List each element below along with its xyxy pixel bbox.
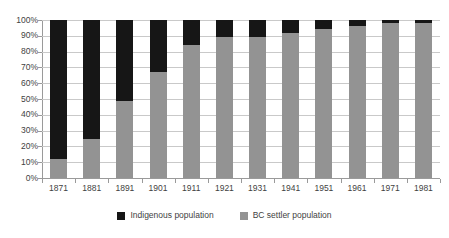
- x-tick-mark: [341, 179, 342, 183]
- bar-column[interactable]: [415, 20, 432, 178]
- x-tick-label: 1941: [274, 184, 307, 193]
- x-tick-mark: [241, 179, 242, 183]
- legend-swatch-icon: [117, 212, 125, 220]
- bar-segment-settler[interactable]: [116, 101, 133, 178]
- legend-item[interactable]: BC settler population: [240, 211, 332, 220]
- bar-column[interactable]: [282, 20, 299, 178]
- x-tick-mark: [75, 179, 76, 183]
- y-axis: 100%90%80%70%60%50%40%30%20%10%0%: [0, 0, 38, 238]
- legend-label: BC settler population: [253, 211, 332, 220]
- bar-segment-settler[interactable]: [315, 29, 332, 178]
- x-tick-label: 1901: [142, 184, 175, 193]
- bar-column[interactable]: [50, 20, 67, 178]
- x-tick-label: 1981: [407, 184, 440, 193]
- bar-segment-indigenous[interactable]: [282, 20, 299, 33]
- y-tick-label: 60%: [21, 79, 38, 88]
- bar-column[interactable]: [83, 20, 100, 178]
- y-tick-label: 40%: [21, 110, 38, 119]
- bar-segment-settler[interactable]: [249, 37, 266, 178]
- y-tick-label: 70%: [21, 63, 38, 72]
- bar-column[interactable]: [216, 20, 233, 178]
- x-tick-label: 1961: [341, 184, 374, 193]
- bar-column[interactable]: [382, 20, 399, 178]
- x-tick-label: 1891: [108, 184, 141, 193]
- y-tick-label: 50%: [21, 95, 38, 104]
- bar-segment-indigenous[interactable]: [216, 20, 233, 37]
- bar-segment-indigenous[interactable]: [183, 20, 200, 45]
- x-tick-mark: [274, 179, 275, 183]
- bar-segment-settler[interactable]: [83, 139, 100, 178]
- bar-column[interactable]: [249, 20, 266, 178]
- bar-segment-indigenous[interactable]: [382, 20, 399, 23]
- gridline: [42, 20, 440, 21]
- gridline: [42, 146, 440, 147]
- x-tick-mark: [407, 179, 408, 183]
- bar-segment-indigenous[interactable]: [415, 20, 432, 23]
- y-tick-label: 20%: [21, 142, 38, 151]
- bar-segment-indigenous[interactable]: [349, 20, 366, 26]
- y-tick-label: 10%: [21, 158, 38, 167]
- gridline: [42, 67, 440, 68]
- y-tick-label: 80%: [21, 47, 38, 56]
- gridline: [42, 36, 440, 37]
- y-tick-label: 30%: [21, 126, 38, 135]
- gridline: [42, 83, 440, 84]
- bar-column[interactable]: [315, 20, 332, 178]
- x-tick-label: 1871: [42, 184, 75, 193]
- x-tick-label: 1931: [241, 184, 274, 193]
- x-tick-mark: [374, 179, 375, 183]
- bar-column[interactable]: [150, 20, 167, 178]
- bar-segment-indigenous[interactable]: [249, 20, 266, 37]
- bar-segment-indigenous[interactable]: [315, 20, 332, 29]
- bar-column[interactable]: [183, 20, 200, 178]
- bar-segment-settler[interactable]: [382, 23, 399, 178]
- stacked-bar-chart: 100%90%80%70%60%50%40%30%20%10%0% 187118…: [0, 0, 449, 238]
- bar-segment-settler[interactable]: [282, 33, 299, 178]
- bar-column[interactable]: [349, 20, 366, 178]
- x-tick-label: 1971: [374, 184, 407, 193]
- gridline: [42, 52, 440, 53]
- y-tick-label: 0%: [26, 174, 38, 183]
- y-tick-label: 100%: [16, 16, 38, 25]
- legend-label: Indigenous population: [130, 211, 213, 220]
- gridline: [42, 162, 440, 163]
- x-tick-mark: [108, 179, 109, 183]
- bar-segment-settler[interactable]: [150, 72, 167, 178]
- x-tick-mark: [440, 179, 441, 183]
- bar-segment-settler[interactable]: [349, 26, 366, 178]
- plot-area: [42, 20, 440, 178]
- x-tick-mark: [307, 179, 308, 183]
- bar-segment-settler[interactable]: [183, 45, 200, 178]
- bar-segment-settler[interactable]: [216, 37, 233, 178]
- gridline: [42, 115, 440, 116]
- bar-segment-indigenous[interactable]: [150, 20, 167, 72]
- bar-segment-settler[interactable]: [415, 23, 432, 178]
- x-tick-label: 1921: [208, 184, 241, 193]
- x-tick-label: 1911: [175, 184, 208, 193]
- legend-swatch-icon: [240, 212, 248, 220]
- bar-segment-indigenous[interactable]: [50, 20, 67, 159]
- bar-column[interactable]: [116, 20, 133, 178]
- x-tick-label: 1951: [307, 184, 340, 193]
- bar-segment-settler[interactable]: [50, 159, 67, 178]
- x-tick-mark: [142, 179, 143, 183]
- gridline: [42, 131, 440, 132]
- legend-item[interactable]: Indigenous population: [117, 211, 213, 220]
- gridline: [42, 99, 440, 100]
- chart-legend: Indigenous populationBC settler populati…: [0, 211, 449, 220]
- x-tick-mark: [175, 179, 176, 183]
- x-tick-label: 1881: [75, 184, 108, 193]
- x-tick-mark: [42, 179, 43, 183]
- bar-segment-indigenous[interactable]: [83, 20, 100, 139]
- bar-segment-indigenous[interactable]: [116, 20, 133, 101]
- y-tick-label: 90%: [21, 31, 38, 40]
- x-tick-mark: [208, 179, 209, 183]
